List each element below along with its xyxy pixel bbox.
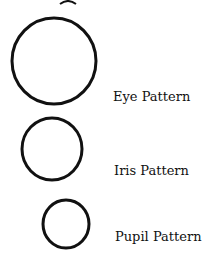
eye-pattern-label: Eye Pattern xyxy=(113,89,190,104)
pupil-pattern-label: Pupil Pattern xyxy=(115,229,202,244)
iris-circle xyxy=(22,118,82,180)
iris-pattern-label: Iris Pattern xyxy=(114,163,189,178)
eye-circle xyxy=(12,18,96,104)
pupil-circle xyxy=(43,200,89,248)
diagram-canvas xyxy=(0,0,216,255)
top-cutoff-mark xyxy=(60,1,76,4)
